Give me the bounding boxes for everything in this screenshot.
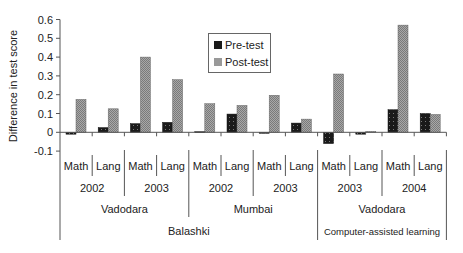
legend: Pre-test Post-test bbox=[208, 33, 271, 73]
y-tick-label: -0.1 bbox=[34, 145, 53, 157]
city-label: Vadodara bbox=[101, 203, 149, 215]
legend-item-pre-test: Pre-test bbox=[214, 39, 264, 51]
subject-label: Lang bbox=[418, 160, 442, 172]
y-tick-label: 0.5 bbox=[38, 32, 53, 44]
post-test-bar bbox=[301, 119, 311, 132]
pre-test-bar bbox=[420, 114, 430, 133]
post-test-bar bbox=[334, 74, 344, 132]
post-test-bar bbox=[140, 57, 150, 132]
subject-label: Lang bbox=[160, 160, 184, 172]
post-test-bar bbox=[205, 104, 215, 133]
city-label: Vadodara bbox=[359, 203, 407, 215]
post-test-bar bbox=[237, 105, 247, 132]
subject-label: Math bbox=[64, 160, 88, 172]
post-test-bar bbox=[173, 80, 183, 133]
post-test-bar bbox=[269, 95, 279, 132]
post-test-bar bbox=[398, 25, 408, 132]
subject-label: Math bbox=[386, 160, 410, 172]
subject-label: Lang bbox=[354, 160, 378, 172]
subject-label: Lang bbox=[225, 160, 249, 172]
y-tick-label: 0.1 bbox=[38, 108, 53, 120]
subject-label: Math bbox=[321, 160, 345, 172]
y-tick-label: 0.6 bbox=[38, 14, 53, 26]
program-label: Computer-assisted learning bbox=[324, 226, 440, 237]
pre-test-swatch-icon bbox=[214, 41, 222, 49]
pre-test-bar bbox=[98, 128, 108, 133]
pre-test-bar bbox=[130, 124, 140, 133]
program-label: Balashki bbox=[168, 225, 210, 237]
y-tick-label: 0.2 bbox=[38, 89, 53, 101]
bar-chart: Difference in test score -0.100.10.20.30… bbox=[0, 0, 463, 253]
y-tick-label: 0 bbox=[47, 126, 53, 138]
year-label: 2003 bbox=[338, 182, 362, 194]
post-test-bar bbox=[430, 114, 440, 132]
post-test-bar bbox=[76, 99, 86, 132]
x-axis: MathLangMathLangMathLangMathLangMathLang… bbox=[60, 132, 446, 240]
subject-label: Lang bbox=[96, 160, 120, 172]
year-label: 2002 bbox=[209, 182, 233, 194]
pre-test-bar bbox=[388, 110, 398, 133]
year-label: 2003 bbox=[273, 182, 297, 194]
pre-test-bar bbox=[324, 132, 334, 143]
subject-label: Lang bbox=[289, 160, 313, 172]
pre-test-bar bbox=[227, 114, 237, 132]
y-tick-label: 0.3 bbox=[38, 70, 53, 82]
legend-item-post-test: Post-test bbox=[214, 56, 268, 68]
subject-label: Math bbox=[193, 160, 217, 172]
y-tick-label: 0.4 bbox=[38, 51, 53, 63]
city-label: Mumbai bbox=[234, 203, 273, 215]
subject-label: Math bbox=[257, 160, 281, 172]
year-label: 2004 bbox=[402, 182, 426, 194]
post-test-swatch-icon bbox=[214, 58, 222, 66]
year-label: 2003 bbox=[144, 182, 168, 194]
legend-label: Pre-test bbox=[225, 39, 264, 51]
legend-label: Post-test bbox=[225, 56, 268, 68]
post-test-bar bbox=[108, 109, 118, 133]
subject-label: Math bbox=[128, 160, 152, 172]
year-label: 2002 bbox=[80, 182, 104, 194]
pre-test-bar bbox=[163, 122, 173, 132]
y-axis: -0.100.10.20.30.40.50.6 bbox=[34, 14, 60, 241]
y-axis-label: Difference in test score bbox=[7, 30, 19, 142]
pre-test-bar bbox=[291, 123, 301, 132]
